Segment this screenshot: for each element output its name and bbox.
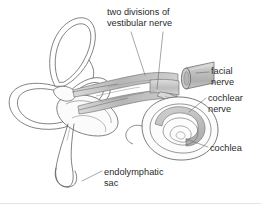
endolymphatic-sac-bulb [55, 168, 77, 187]
ampulla-anterior [54, 86, 76, 101]
endolymphatic-duct-neck-mark [67, 127, 70, 140]
label-cochlear-nerve: cochlearnerve [208, 93, 243, 115]
label-facial-nerve-line1: facial [211, 66, 233, 76]
canal-crossing-link-b [89, 60, 94, 78]
endolymphatic-duct-right [68, 124, 74, 187]
figure-canvas: two divisions ofvestibular nerve facialn… [0, 0, 261, 204]
superior-semicircular-canal-inner [55, 24, 91, 82]
label-vestibular-nerve-line2: vestibular nerve [107, 18, 172, 28]
label-vestibular-nerve-line1: two divisions of [107, 7, 170, 17]
facial-nerve-group [181, 62, 214, 89]
label-cochlear-nerve-line1: cochlear [208, 93, 243, 103]
endolymphatic-sac-group [55, 124, 77, 187]
label-endolymphatic-sac: endolymphaticsac [104, 167, 164, 189]
leader-endolymphatic-sac [82, 171, 102, 181]
leader-vestibular-left [131, 32, 145, 75]
label-endolymphatic-sac-line1: endolymphatic [104, 167, 164, 177]
label-cochlea: cochlea [210, 143, 242, 154]
label-cochlea-line1: cochlea [210, 143, 242, 153]
endolymphatic-duct-left [56, 124, 68, 187]
label-vestibular-nerve: two divisions ofvestibular nerve [107, 7, 172, 29]
facial-nerve-cut-end-inner [184, 72, 189, 86]
label-facial-nerve: facialnerve [211, 66, 234, 88]
label-facial-nerve-line2: nerve [211, 77, 234, 87]
label-endolymphatic-sac-line2: sac [104, 178, 118, 188]
label-cochlear-nerve-line2: nerve [208, 104, 231, 114]
cochlea-base-connection [126, 125, 142, 144]
cochlea-group [126, 97, 218, 160]
